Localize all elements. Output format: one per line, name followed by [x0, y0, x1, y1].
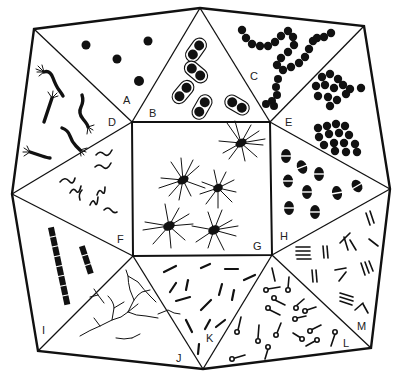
panel-l-spore-rods: L	[230, 268, 349, 361]
label-l: L	[343, 337, 349, 349]
label-c: C	[250, 70, 258, 82]
label-i: I	[42, 324, 45, 336]
panel-g-flagellated: G	[143, 121, 265, 252]
panel-f-spirochetes: F	[60, 150, 124, 245]
label-a: A	[123, 94, 131, 106]
label-e: E	[285, 116, 292, 128]
panel-m-palisade: M	[296, 211, 378, 332]
panel-k-short-rods: K	[164, 264, 255, 354]
label-f: F	[117, 233, 124, 245]
panel-d-spirilla: D	[23, 65, 116, 158]
central-square	[132, 122, 272, 256]
label-m: M	[357, 320, 366, 332]
label-b: B	[149, 107, 156, 119]
label-h: H	[280, 230, 288, 242]
panel-a-cocci: A	[82, 37, 153, 107]
label-g: G	[253, 240, 262, 252]
label-k: K	[206, 332, 214, 344]
label-d: D	[108, 116, 116, 128]
panel-b-diplococci: B	[149, 35, 252, 121]
panel-i-rod-chains: I	[42, 227, 94, 336]
panel-h-bipolar-rods: H	[280, 149, 365, 242]
panel-e-staphylococci: E	[285, 70, 365, 156]
bacteria-morphology-diagram: A B C	[0, 0, 396, 378]
label-j: J	[176, 352, 182, 364]
panel-j-branching: J	[80, 270, 182, 364]
